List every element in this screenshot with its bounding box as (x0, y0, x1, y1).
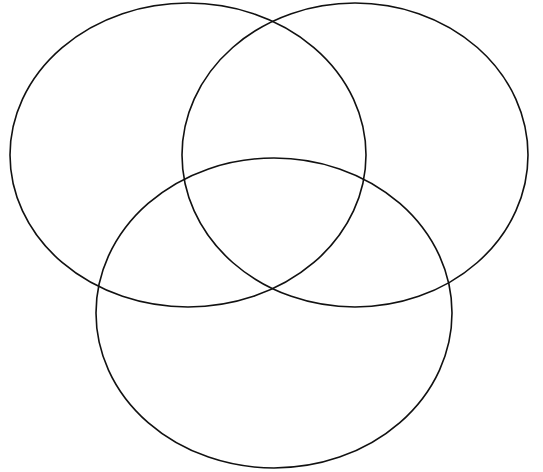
venn-set-c-ellipse (96, 158, 452, 468)
venn-set-a-ellipse (10, 3, 366, 307)
venn-set-b-ellipse (182, 3, 528, 307)
venn-diagram (0, 0, 543, 472)
